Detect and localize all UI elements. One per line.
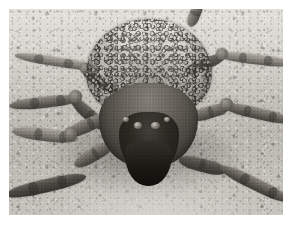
chelicerae: [125, 141, 172, 186]
spider-photograph: Close-up frontal view of a wolf spider s…: [9, 9, 283, 215]
rear-left-leg-femur: [9, 170, 87, 201]
second-right-leg-tibia: [219, 50, 283, 69]
rear-right-leg-tibia: [217, 162, 283, 207]
screenshot-canvas: Close-up frontal view of a wolf spider s…: [0, 0, 290, 226]
wolf-spider: [9, 9, 283, 215]
